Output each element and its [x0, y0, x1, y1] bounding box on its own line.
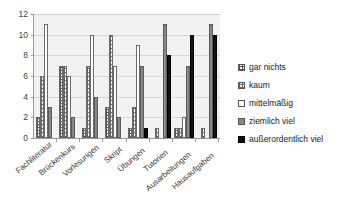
legend-label: außerordentlich viel — [249, 135, 323, 144]
legend-swatch-icon — [238, 136, 245, 143]
bar-chart: 024681012 FachliteraturBrückenkursVorles… — [0, 0, 355, 216]
legend-item: ziemlich viel — [238, 112, 354, 130]
bar-group — [150, 14, 173, 138]
y-axis-tick-label: 4 — [4, 93, 28, 101]
chart-legend: gar nichtskaummittelmäßigziemlich vielau… — [238, 58, 354, 148]
y-axis: 024681012 — [0, 14, 28, 138]
y-axis-tick-label: 10 — [4, 31, 28, 39]
bar — [155, 128, 159, 138]
bar-group — [196, 14, 219, 138]
legend-label: mittelmäßig — [249, 99, 293, 108]
legend-swatch-icon — [238, 64, 245, 71]
y-axis-tick-label: 6 — [4, 72, 28, 80]
bar-group — [127, 14, 150, 138]
bar-groups — [34, 14, 219, 138]
bar-group — [173, 14, 196, 138]
legend-swatch-icon — [238, 118, 245, 125]
legend-label: ziemlich viel — [249, 117, 295, 126]
legend-item: außerordentlich viel — [238, 130, 354, 148]
legend-item: kaum — [238, 76, 354, 94]
legend-swatch-icon — [238, 82, 245, 89]
y-axis-tick-label: 2 — [4, 113, 28, 121]
legend-label: kaum — [249, 81, 270, 90]
legend-item: gar nichts — [238, 58, 354, 76]
bar-group — [34, 14, 57, 138]
bar-group — [103, 14, 126, 138]
bar — [71, 117, 75, 138]
y-axis-tick-label: 8 — [4, 51, 28, 59]
legend-swatch-icon — [238, 100, 245, 107]
y-axis-tick-label: 12 — [4, 10, 28, 18]
bar-group — [80, 14, 103, 138]
bar — [190, 35, 194, 138]
bar — [117, 117, 121, 138]
bar-group — [57, 14, 80, 138]
legend-item: mittelmäßig — [238, 94, 354, 112]
bar — [213, 35, 217, 138]
bar — [201, 128, 205, 138]
bar — [144, 128, 148, 138]
bar — [48, 107, 52, 138]
bar — [167, 55, 171, 138]
legend-label: gar nichts — [249, 63, 286, 72]
bar — [94, 97, 98, 138]
x-axis-labels: FachliteraturBrückenkursVorlesungenSkrip… — [0, 138, 230, 216]
